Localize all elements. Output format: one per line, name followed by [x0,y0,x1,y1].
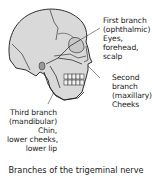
label-line: (ophthalmic) [103,25,150,34]
label-line: Third branch [7,108,57,117]
label-line: scalp [103,52,150,61]
figure-caption: Branches of the trigeminal nerve [0,165,152,175]
label-line: First branch [103,16,150,25]
label-line: Cheeks [112,100,152,109]
label-line: Eyes, [103,34,150,43]
label-third-branch: Third branch (mandibular) Chin, lower ch… [7,108,57,153]
label-line: forehead, [103,43,150,52]
label-line: (maxillary) [112,91,152,100]
label-second-branch: Second branch (maxillary) Cheeks [112,73,152,109]
label-line: lower cheeks, [7,135,57,144]
label-line: lower lip [7,144,57,153]
label-line: branch [112,82,152,91]
label-line: (mandibular) [7,117,57,126]
label-line: Second [112,73,152,82]
label-line: Chin, [7,126,57,135]
skull-illustration [0,0,100,110]
label-first-branch: First branch (ophthalmic) Eyes, forehead… [103,16,150,61]
